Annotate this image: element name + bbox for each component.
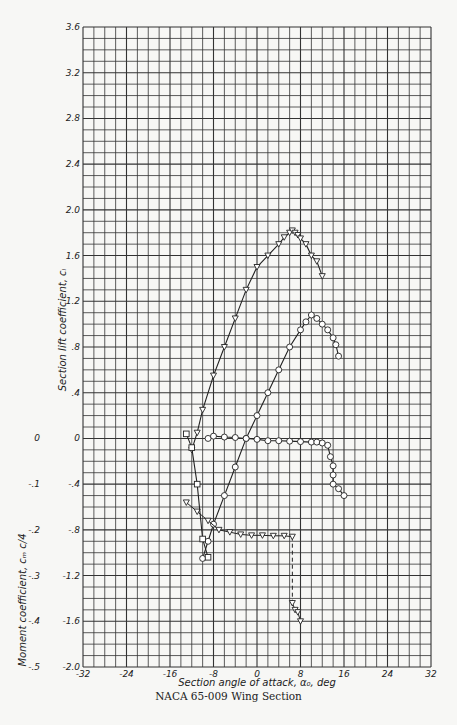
circle-marker (276, 438, 282, 444)
x-tick-label: -16 (163, 669, 178, 679)
y2-tick-label: -.1 (28, 479, 40, 489)
circle-marker (221, 493, 227, 499)
circle-marker (330, 463, 336, 469)
circle-marker (254, 436, 260, 442)
circle-marker (308, 312, 314, 318)
circle-marker (298, 327, 304, 333)
triangle-marker (289, 601, 295, 607)
secondary-y-axis-title: Moment coefficient, cₘ c/4 (17, 533, 28, 666)
y-tick-label: 2.8 (66, 113, 81, 123)
circle-marker (265, 438, 271, 444)
y2-tick-label: -.5 (28, 662, 40, 672)
x-tick-label: -32 (76, 669, 91, 679)
square-marker (200, 536, 206, 542)
circle-marker (200, 555, 206, 561)
square-marker (205, 554, 211, 560)
circle-marker (330, 481, 336, 487)
circle-marker (211, 433, 217, 439)
circle-marker (232, 464, 238, 470)
circle-marker (319, 321, 325, 327)
triangle-marker (314, 259, 320, 265)
circle-marker (276, 367, 282, 373)
circle-marker (205, 538, 211, 544)
square-marker (189, 445, 195, 451)
circle-marker (221, 434, 227, 440)
y-tick-label: 2.4 (66, 159, 81, 169)
x-tick-label: 24 (382, 669, 394, 679)
circle-marker (232, 435, 238, 441)
y-tick-label: -1.6 (62, 616, 80, 626)
y2-tick-label: -.3 (28, 571, 40, 581)
circle-marker (330, 472, 336, 478)
circle-marker (314, 439, 320, 445)
x-tick-label: 16 (338, 669, 350, 679)
y-tick-label: 2.0 (66, 205, 81, 215)
y-tick-label: 3.2 (66, 68, 81, 78)
figure-caption: NACA 65-009 Wing Section (0, 690, 457, 702)
y-tick-label: 0 (74, 433, 80, 443)
triangle-marker (232, 316, 238, 322)
y2-tick-label: 0 (34, 433, 40, 443)
series-line (205, 433, 347, 498)
triangle-marker (211, 373, 217, 379)
square-marker (194, 481, 200, 487)
circle-marker (333, 342, 339, 348)
circle-marker (341, 493, 347, 499)
x-tick-label: 32 (425, 669, 437, 679)
circle-marker (325, 327, 331, 333)
y-tick-label: 1.6 (66, 251, 81, 261)
y-tick-label: -1.2 (62, 571, 80, 581)
y-axis-title: Section lift coefficient, cₗ (57, 268, 68, 391)
triangle-marker (194, 430, 200, 436)
circle-marker (243, 435, 249, 441)
circle-marker (303, 319, 309, 325)
secondary-y-axis-ticks: 0-.1-.2-.3-.4-.5 (28, 433, 40, 672)
x-axis-title: Section angle of attack, α₀, deg (178, 677, 336, 688)
circle-marker (336, 353, 342, 359)
triangle-marker (200, 407, 206, 413)
y-tick-label: -.4 (68, 479, 80, 489)
circle-marker (314, 315, 320, 321)
y-tick-label: .8 (71, 342, 80, 352)
circle-marker (298, 439, 304, 445)
circle-marker (287, 344, 293, 350)
circle-marker (254, 413, 260, 419)
lift-moment-chart: -2.0-1.6-1.2-.8-.40.4.81.21.62.02.42.83.… (0, 0, 457, 725)
circle-marker (325, 442, 331, 448)
circle-marker (327, 454, 333, 460)
circle-marker (336, 486, 342, 492)
y-tick-label: .4 (71, 388, 80, 398)
x-tick-label: -24 (119, 669, 134, 679)
y2-tick-label: -.2 (28, 525, 40, 535)
y-tick-label: 3.6 (66, 22, 81, 32)
square-marker (184, 431, 190, 437)
y-tick-label: -.8 (68, 525, 80, 535)
grid (83, 27, 431, 667)
circle-marker (330, 335, 336, 341)
y2-tick-label: -.4 (28, 616, 40, 626)
circle-marker (265, 390, 271, 396)
circle-marker (287, 438, 293, 444)
